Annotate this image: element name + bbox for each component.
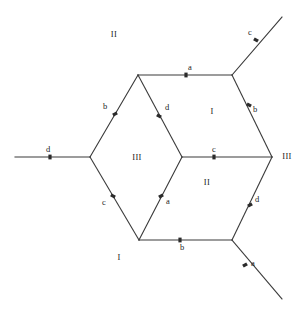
graph-ray [232, 17, 282, 75]
graph-edge [90, 157, 139, 240]
graph-edge [232, 157, 272, 240]
arrow-tick-icon [184, 73, 187, 78]
arrow-tick-icon [242, 262, 248, 267]
face-outer-top-label: II [111, 29, 117, 39]
edge-label-c: c [102, 197, 106, 207]
face-inner-upper-label: I [210, 106, 213, 116]
face-outer-right-label: III [282, 151, 291, 161]
arrow-tick-icon [253, 37, 259, 42]
ray-label-d: d [46, 144, 51, 154]
arrow-tick-icon [112, 111, 118, 116]
arrow-tick-icon [110, 193, 116, 198]
rays-group [15, 17, 282, 299]
edge-label-b: b [253, 104, 257, 114]
face-inner-lower-label: II [204, 177, 210, 187]
edges-group [90, 75, 272, 240]
graph-ray [232, 240, 282, 299]
edge-label-d: d [255, 194, 260, 204]
arrow-tick-icon [212, 155, 215, 160]
graph-edge [232, 75, 272, 157]
arrow-tick-icon [48, 155, 51, 160]
ray-label-a: a [251, 258, 255, 268]
edge-label-c: c [212, 144, 216, 154]
ray-label-c: c [248, 27, 252, 37]
edge-label-b: b [180, 242, 184, 252]
graph-edge [139, 157, 182, 240]
edge-label-a: a [188, 62, 192, 72]
edge-labels-group: abdbccabddca [46, 27, 260, 268]
edge-label-a: a [166, 196, 170, 206]
face-inner-left-label: III [132, 152, 141, 162]
edge-label-d: d [165, 102, 170, 112]
edge-label-b: b [103, 101, 107, 111]
hexagonal-graph-diagram: abdbccabddca IIIIIIIIIIII [0, 0, 308, 316]
face-labels-group: IIIIIIIIIIII [111, 29, 292, 262]
arrow-ticks-group [48, 37, 258, 267]
face-outer-bottom-label: I [117, 252, 120, 262]
